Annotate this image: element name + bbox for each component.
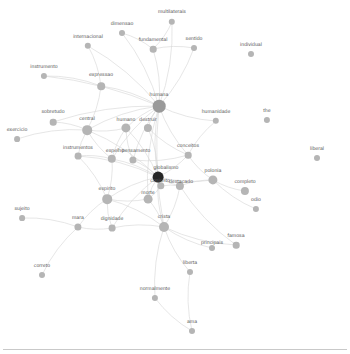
graph-node-label-sujeito: sujeito <box>14 207 29 212</box>
graph-edge <box>155 298 192 331</box>
graph-node-label-espirito: espirito <box>99 187 116 192</box>
graph-node-label-ama: ama <box>187 320 197 325</box>
graph-node-label-exercicio: exercicio <box>7 128 28 133</box>
graph-edge <box>78 156 158 177</box>
graph-node-label-instrumento: instrumento <box>30 65 57 70</box>
graph-node-dignidade[interactable] <box>109 225 116 232</box>
graph-edge <box>78 227 112 229</box>
graph-node-correto[interactable] <box>39 272 45 278</box>
graph-node-label-dimensao: dimensao <box>111 22 134 27</box>
graph-node-label-sobretudo: sobretudo <box>41 110 64 115</box>
graph-node-sentido[interactable] <box>191 45 197 51</box>
graph-node-label-humanidade: humanidade <box>202 110 231 115</box>
graph-node-sobretudo[interactable] <box>50 119 57 126</box>
graph-node-exercicio[interactable] <box>14 136 20 142</box>
graph-node-humana[interactable] <box>153 100 166 113</box>
graph-node-label-conceitos: conceitos <box>177 144 199 149</box>
graph-node-label-liberta: liberta <box>183 261 197 266</box>
graph-node-sujeito[interactable] <box>19 215 25 221</box>
graph-node-label-principais: principais <box>201 241 223 246</box>
graph-edge <box>148 128 188 155</box>
graph-node-label-destruir: destruir <box>139 118 156 123</box>
graph-node-liberta[interactable] <box>187 269 193 275</box>
footer-divider <box>3 349 347 350</box>
graph-node-label-pensamento: pensamento <box>122 149 151 154</box>
graph-node-label-globalismo: globalismo <box>154 166 179 171</box>
graph-edge <box>78 156 107 199</box>
graph-node-label-correto: correto <box>34 264 50 269</box>
graph-node-label-conjunto: conjunto <box>150 179 170 184</box>
graph-edge <box>153 22 172 49</box>
graph-node-label-completo: completo <box>234 180 255 185</box>
graph-node-label-humano: humano <box>117 118 136 123</box>
graph-node-label-polonia: polonia <box>205 169 222 174</box>
graph-node-label-multilaterais: multilaterais <box>158 10 186 15</box>
graph-edge <box>87 128 126 131</box>
graph-node-label-crista: crista <box>158 215 171 220</box>
graph-edge <box>153 46 194 49</box>
graph-node-label-internacional: internacional <box>73 35 103 40</box>
graph-node-label-humana: humana <box>150 93 169 98</box>
graph-node-label-destacado: destacado <box>169 180 193 185</box>
graph-edge <box>107 159 112 199</box>
graph-node-label-central: central <box>79 117 95 122</box>
graph-edge <box>133 155 188 161</box>
graph-edges-layer <box>0 0 350 354</box>
graph-node-dimensao[interactable] <box>119 30 125 36</box>
graph-node-label-liberal: liberal <box>310 147 324 152</box>
graph-node-label-morte: morte <box>141 191 154 196</box>
graph-edge <box>78 199 107 227</box>
graph-node-label-the: the <box>263 109 270 114</box>
graph-edge <box>44 76 159 106</box>
graph-edge <box>188 121 216 155</box>
graph-node-label-mara: mara <box>72 216 84 221</box>
graph-edge <box>112 225 164 228</box>
graph-node-label-expressao: expressao <box>89 73 113 78</box>
graph-node-famosa[interactable] <box>233 242 240 249</box>
graph-edge <box>88 46 101 86</box>
graph-node-central[interactable] <box>82 125 92 135</box>
graph-node-label-famosa: famosa <box>227 234 244 239</box>
graph-node-individual[interactable] <box>248 51 254 57</box>
graph-node-label-fundamental: fundamental <box>139 38 168 43</box>
graph-node-conceitos[interactable] <box>185 152 192 159</box>
graph-node-label-sentido: sentido <box>186 37 203 42</box>
graph-node-label-individual: individual <box>240 43 262 48</box>
graph-node-label-odio: odio <box>251 198 261 203</box>
graph-node-ama[interactable] <box>189 328 195 334</box>
graph-node-label-instrumentos: instrumentos <box>63 146 93 151</box>
graph-node-espirito[interactable] <box>102 194 112 204</box>
graph-node-fundamental[interactable] <box>150 46 157 53</box>
graph-node-expressao[interactable] <box>97 82 105 90</box>
graph-node-label-normalmente: normalmente <box>140 287 170 292</box>
graph-node-label-dignidade: dignidade <box>101 217 124 222</box>
network-graph-figure: multilateraisdimensaofundamentalsentidoi… <box>0 0 350 354</box>
graph-edge <box>164 186 180 227</box>
graph-node-instrumentos[interactable] <box>75 153 82 160</box>
graph-node-liberal[interactable] <box>314 155 320 161</box>
graph-edge <box>22 218 78 227</box>
graph-node-crista[interactable] <box>159 222 169 232</box>
